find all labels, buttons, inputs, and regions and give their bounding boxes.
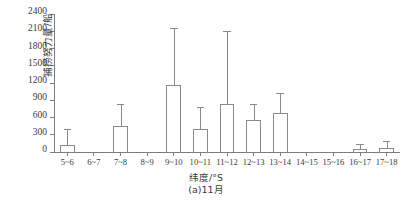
error-bar-stem	[254, 104, 255, 120]
x-tick-label: 9~10	[165, 158, 183, 167]
x-tick-mark	[93, 152, 94, 156]
x-tick-mark	[386, 152, 387, 156]
x-tick-mark	[253, 152, 254, 156]
error-bar-cap	[197, 107, 205, 108]
bar	[273, 113, 288, 152]
x-tick-label: 8~9	[141, 158, 154, 167]
error-bar-stem	[200, 107, 201, 129]
error-bar-stem	[387, 141, 388, 148]
bar	[246, 120, 261, 152]
y-tick-label: 600	[33, 111, 47, 121]
bar-chart-figure: 0300600900120015001800210024005~66~77~88…	[0, 0, 412, 211]
y-tick-mark	[50, 117, 54, 118]
x-tick-label: 16~17	[349, 158, 371, 167]
error-bar-cap	[170, 28, 178, 29]
bar	[60, 145, 75, 152]
bar	[353, 149, 368, 152]
error-bar-cap	[383, 141, 391, 142]
figure-caption: (a)11月	[0, 184, 412, 195]
bar	[379, 148, 394, 152]
y-tick-label: 300	[33, 128, 47, 138]
x-tick-mark	[200, 152, 201, 156]
x-tick-label: 5~6	[61, 158, 74, 167]
x-tick-mark	[306, 152, 307, 156]
bar	[220, 104, 235, 152]
error-bar-cap	[223, 31, 231, 32]
error-bar-cap	[117, 104, 125, 105]
plot-area: 0300600900120015001800210024005~66~77~88…	[54, 14, 400, 152]
x-tick-label: 11~12	[216, 158, 238, 167]
x-tick-label: 13~14	[269, 158, 291, 167]
x-tick-label: 7~8	[114, 158, 127, 167]
error-bar-stem	[67, 129, 68, 145]
y-axis-title: 捕捞努力量/船	[43, 0, 53, 95]
x-tick-mark	[67, 152, 68, 156]
error-bar-cap	[356, 144, 364, 145]
x-axis-title: 纬度/°S	[0, 172, 412, 183]
y-tick-mark	[50, 152, 54, 153]
x-tick-mark	[173, 152, 174, 156]
x-tick-label: 17~18	[376, 158, 398, 167]
y-tick-mark	[50, 100, 54, 101]
bar	[166, 85, 181, 152]
error-bar-stem	[174, 28, 175, 84]
error-bar-cap	[276, 93, 284, 94]
error-bar-cap	[64, 129, 72, 130]
y-tick-mark	[50, 134, 54, 135]
x-tick-mark	[360, 152, 361, 156]
y-tick-label: 0	[42, 145, 47, 155]
x-tick-label: 15~16	[323, 158, 345, 167]
error-bar-cap	[250, 104, 258, 105]
x-tick-mark	[280, 152, 281, 156]
x-tick-label: 12~13	[243, 158, 265, 167]
error-bar-stem	[280, 93, 281, 114]
x-tick-label: 14~15	[296, 158, 318, 167]
bar	[113, 126, 128, 152]
error-bar-stem	[121, 104, 122, 126]
x-tick-label: 10~11	[190, 158, 212, 167]
x-tick-mark	[333, 152, 334, 156]
bar	[193, 129, 208, 152]
error-bar-stem	[227, 31, 228, 105]
x-tick-mark	[120, 152, 121, 156]
x-tick-mark	[227, 152, 228, 156]
x-tick-label: 6~7	[87, 158, 100, 167]
x-tick-mark	[147, 152, 148, 156]
